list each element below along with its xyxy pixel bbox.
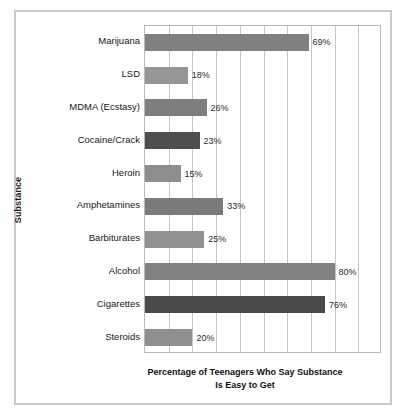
bar-value-label: 25% <box>208 234 226 244</box>
bar-row[interactable]: 23% <box>145 124 380 157</box>
bar-value-label: 15% <box>185 169 203 179</box>
category-label: Heroin <box>8 168 140 178</box>
bar[interactable] <box>145 198 223 215</box>
bar-row[interactable]: 69% <box>145 26 380 59</box>
bar[interactable] <box>145 165 181 182</box>
bar-row[interactable]: 20% <box>145 321 380 354</box>
bar[interactable] <box>145 329 192 346</box>
bar-value-label: 20% <box>196 333 214 343</box>
bar[interactable] <box>145 296 325 313</box>
bar-value-label: 23% <box>204 136 222 146</box>
bar-row[interactable]: 80% <box>145 256 380 289</box>
bar[interactable] <box>145 34 309 51</box>
bar-value-label: 76% <box>329 300 347 310</box>
bar[interactable] <box>145 231 204 248</box>
plot-area: 69%18%26%23%15%33%25%80%76%20% <box>144 25 381 353</box>
category-label: Steroids <box>8 332 140 342</box>
horizontal-bar-chart: Substance MarijuanaLSDMDMA (Ecstasy)Coca… <box>0 0 405 417</box>
bar[interactable] <box>145 263 335 280</box>
bar-row[interactable]: 76% <box>145 288 380 321</box>
category-label: Amphetamines <box>8 200 140 210</box>
category-label: Alcohol <box>8 266 140 276</box>
x-axis-title-line-2: Is Easy to Get <box>100 379 390 392</box>
bar-value-label: 26% <box>211 103 229 113</box>
category-label: MDMA (Ecstasy) <box>8 102 140 112</box>
bar-value-label: 18% <box>192 70 210 80</box>
x-axis-title: Percentage of Teenagers Who Say Substanc… <box>100 366 390 391</box>
category-label: Cigarettes <box>8 299 140 309</box>
bar-row[interactable]: 33% <box>145 190 380 223</box>
bar[interactable] <box>145 132 200 149</box>
bar[interactable] <box>145 67 188 84</box>
bar-rows: 69%18%26%23%15%33%25%80%76%20% <box>145 26 380 352</box>
category-label: Cocaine/Crack <box>8 135 140 145</box>
x-axis-title-line-1: Percentage of Teenagers Who Say Substanc… <box>100 366 390 379</box>
category-label: Barbiturates <box>8 233 140 243</box>
bar-value-label: 80% <box>339 267 357 277</box>
bar-value-label: 33% <box>227 201 245 211</box>
bar-row[interactable]: 18% <box>145 59 380 92</box>
category-label: LSD <box>8 69 140 79</box>
bar[interactable] <box>145 99 207 116</box>
bar-row[interactable]: 15% <box>145 157 380 190</box>
y-axis-category-labels: MarijuanaLSDMDMA (Ecstasy)Cocaine/CrackH… <box>6 25 140 353</box>
bar-value-label: 69% <box>313 37 331 47</box>
bar-row[interactable]: 25% <box>145 223 380 256</box>
bar-row[interactable]: 26% <box>145 92 380 125</box>
category-label: Marijuana <box>8 36 140 46</box>
